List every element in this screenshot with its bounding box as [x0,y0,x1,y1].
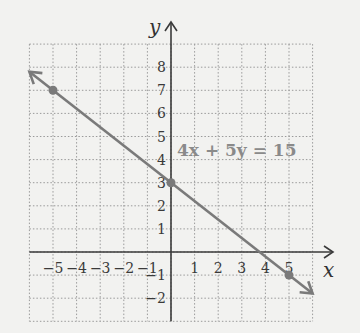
y-axis-label: y [148,15,161,39]
x-axis-label: x [323,258,334,282]
svg-text:4: 4 [157,152,166,168]
svg-text:5: 5 [157,129,166,145]
svg-text:−5: −5 [43,260,64,276]
svg-text:2: 2 [157,198,166,214]
svg-text:−3: −3 [90,260,111,276]
svg-text:−2: −2 [113,260,134,276]
svg-text:2: 2 [214,260,223,276]
svg-text:1: 1 [157,221,166,237]
svg-text:3: 3 [237,260,246,276]
equation-label: 4x + 5y = 15 [177,140,297,160]
svg-text:4: 4 [261,260,270,276]
svg-text:−2: −2 [145,290,166,306]
coordinate-plane: −5−4−3−2−112345−2−112345678 x y 4x + 5y … [0,0,360,333]
svg-text:7: 7 [157,82,166,98]
svg-text:1: 1 [190,260,199,276]
svg-text:−1: −1 [145,267,166,283]
svg-text:−4: −4 [66,260,87,276]
svg-text:8: 8 [157,59,166,75]
svg-text:6: 6 [157,105,166,121]
